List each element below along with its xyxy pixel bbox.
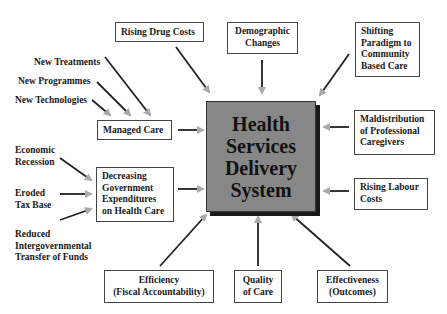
efficiency-box: Efficiency (Fiscal Accountability) (104, 270, 214, 303)
label-new-programmes: New Programmes (18, 76, 90, 88)
health-services-delivery-system: Health Services Delivery System (206, 101, 316, 212)
decreasing-government-expenditures-box: Decreasing Government Expenditures on He… (96, 167, 174, 222)
effectiveness-box: Effectiveness (Outcomes) (317, 270, 388, 303)
maldistribution-box: Maldistribution of Professional Caregive… (354, 110, 435, 155)
label-new-treatments: New Treatments (34, 57, 100, 69)
rising-drug-costs-box: Rising Drug Costs (115, 22, 204, 42)
label-economic-recession: Economic Recession (15, 145, 55, 168)
demographic-changes-box: Demographic Changes (227, 22, 298, 54)
label-new-technologies: New Technologies (15, 95, 87, 107)
shifting-paradigm-box: Shifting Paradigm to Community Based Car… (355, 22, 420, 77)
label-reduced-transfer: Reduced Intergovernmental Transfer of Fu… (15, 229, 92, 264)
core-title: Health Services Delivery System (225, 113, 297, 201)
label-eroded-tax-base: Eroded Tax Base (15, 188, 51, 211)
quality-of-care-box: Quality of Care (234, 270, 282, 303)
rising-labour-costs-box: Rising Labour Costs (354, 178, 428, 210)
managed-care-box: Managed Care (97, 120, 172, 140)
